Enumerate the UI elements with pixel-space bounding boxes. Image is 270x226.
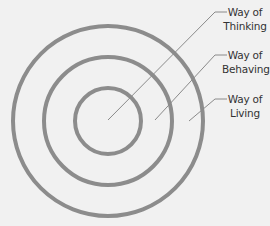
label-way-of-thinking: Way of Thinking <box>222 5 268 33</box>
label-thinking-line2: Thinking <box>222 19 268 33</box>
label-behaving-line2: Behaving <box>222 62 268 76</box>
middle-ring-way-of-behaving <box>44 57 172 185</box>
label-living-line2: Living <box>222 106 268 120</box>
label-way-of-living: Way of Living <box>222 92 268 120</box>
leader-line-behaving <box>155 55 227 120</box>
label-way-of-behaving: Way of Behaving <box>222 48 268 76</box>
outer-ring-way-of-living <box>13 26 203 216</box>
label-behaving-line1: Way of <box>222 48 268 62</box>
inner-ring-way-of-thinking <box>75 88 141 154</box>
label-living-line1: Way of <box>222 92 268 106</box>
label-thinking-line1: Way of <box>222 5 268 19</box>
concentric-circles-diagram: Way of Thinking Way of Behaving Way of L… <box>0 0 270 226</box>
